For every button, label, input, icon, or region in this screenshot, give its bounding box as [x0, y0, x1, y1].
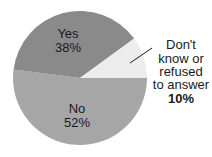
slice-value-yes: 38%: [55, 40, 81, 55]
slice-value-no: 52%: [64, 115, 90, 130]
slice-label-dontknow-1: Don't: [166, 37, 196, 52]
slice-label-no: No: [69, 101, 86, 116]
slice-label-yes: Yes: [57, 26, 79, 41]
pie-chart: Yes 38% No 52% Don't know or refused to …: [0, 0, 212, 157]
slice-label-dontknow-4: to answer: [153, 77, 210, 92]
slice-value-dontknow: 10%: [168, 91, 194, 106]
